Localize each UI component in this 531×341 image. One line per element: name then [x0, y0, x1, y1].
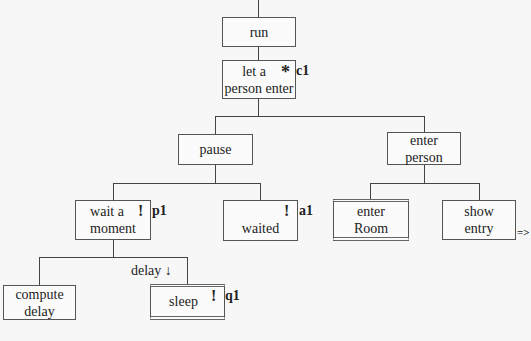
node-run[interactable]: run	[222, 17, 296, 47]
node-label: sleep	[169, 293, 198, 310]
node-tag-q1: q1	[225, 288, 240, 304]
continuation-arrow-icon: =>	[517, 226, 530, 238]
wire-entry	[258, 0, 259, 17]
node-label-line1: show	[464, 203, 494, 220]
node-label-line1: compute	[15, 286, 63, 303]
node-label: pause	[200, 141, 232, 158]
node-label-line1: let a	[242, 63, 266, 80]
wire-to-sleep	[187, 257, 188, 284]
wire-enter-person-down	[424, 165, 425, 183]
node-tag-a1: a1	[299, 203, 313, 219]
wire-to-pause	[215, 116, 216, 134]
node-label: run	[250, 24, 269, 41]
wire-to-wait	[113, 183, 114, 200]
wire-to-show-entry	[479, 183, 480, 200]
edge-label-delay: delay ↓	[131, 263, 172, 279]
wire-level2a-bar	[113, 183, 261, 184]
iteration-marker-icon: *	[281, 62, 290, 83]
node-label-line2: Room	[354, 220, 388, 237]
wire-to-compute	[39, 257, 40, 285]
wire-to-enter-person	[424, 116, 425, 132]
node-label-line1: enter	[357, 203, 385, 220]
wire-level3-bar	[39, 257, 187, 258]
wire-to-waited	[260, 183, 261, 200]
node-label-line2: moment	[90, 220, 136, 237]
node-enter-person[interactable]: enter person	[387, 132, 461, 165]
wire-run-to-let	[258, 47, 259, 60]
wire-level1-bar	[215, 116, 424, 117]
selection-marker-icon: !	[211, 287, 216, 305]
node-label-line1: enter	[410, 132, 438, 149]
node-label: waited	[242, 220, 279, 237]
wire-wait-down	[113, 240, 114, 257]
wire-pause-down	[215, 165, 216, 183]
node-show-entry[interactable]: show entry	[442, 200, 516, 240]
selection-marker-icon: !	[284, 202, 289, 220]
wire-let-down	[258, 99, 259, 116]
node-label-line2: entry	[465, 220, 494, 237]
selection-marker-icon: !	[138, 202, 143, 220]
node-compute-delay[interactable]: compute delay	[3, 285, 76, 320]
node-label-line1: wait a	[90, 203, 124, 220]
node-tag-c1: c1	[296, 63, 309, 79]
node-pause[interactable]: pause	[178, 134, 253, 165]
wire-level2b-bar	[370, 183, 479, 184]
node-label-line2: person	[405, 149, 442, 166]
node-enter-room[interactable]: enter Room	[333, 199, 409, 241]
node-label-line2: delay	[24, 303, 54, 320]
node-tag-p1: p1	[152, 203, 167, 219]
wire-to-enter-room	[370, 183, 371, 199]
